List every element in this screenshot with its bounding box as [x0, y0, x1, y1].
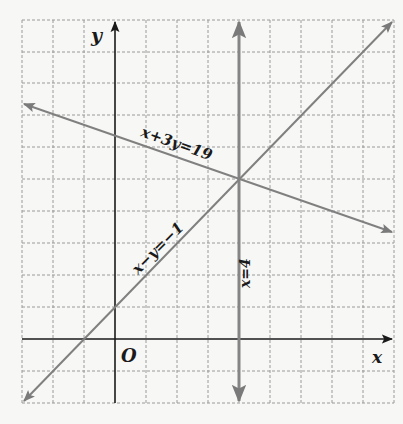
label-x-equals-4: x=4 [237, 258, 253, 289]
label-x-minus-y: x−y=−1 [127, 219, 187, 279]
x-axis-label: x [371, 347, 383, 367]
origin-label: O [121, 345, 137, 366]
y-axis-label: y [90, 24, 104, 46]
coordinate-plane: y x O x+3y=19 x−y=−1 x=4 [0, 0, 403, 424]
